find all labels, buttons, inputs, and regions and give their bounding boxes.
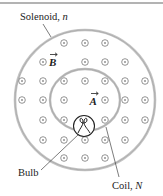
- field-dot-icon: [82, 155, 89, 162]
- vector-b-label: B: [48, 53, 59, 68]
- field-dot-icon: [61, 97, 68, 104]
- vector-a-label: A: [89, 92, 101, 107]
- field-dot-icon: [122, 97, 129, 104]
- field-dot-icon: [102, 78, 109, 85]
- solenoid-variable: n: [63, 11, 68, 22]
- field-dot-icon: [40, 78, 47, 85]
- field-dot-icon: [142, 117, 149, 124]
- field-dot-icon: [122, 78, 129, 85]
- field-dot-icon: [102, 137, 109, 144]
- field-dot-icon: [61, 40, 68, 47]
- field-dot-icon: [82, 78, 89, 85]
- field-dot-icon: [102, 40, 109, 47]
- field-dot-icon: [19, 97, 26, 104]
- svg-text:A: A: [89, 95, 97, 107]
- solenoid-leader-line: [43, 24, 51, 37]
- field-dot-icon: [19, 78, 26, 85]
- coil-variable: N: [134, 180, 143, 191]
- field-dot-icon: [61, 137, 68, 144]
- field-dot-icon: [102, 155, 109, 162]
- coil-leader-line: [106, 127, 119, 177]
- solenoid-label: Solenoid, n: [20, 11, 68, 22]
- field-dot-icon: [40, 97, 47, 104]
- field-dot-icon: [82, 137, 89, 144]
- field-dot-icon: [61, 155, 68, 162]
- coil-label: Coil, N: [112, 180, 143, 191]
- field-dot-icon: [82, 40, 89, 47]
- bulb-icon: [74, 116, 95, 137]
- solenoid-ring: [15, 30, 155, 170]
- field-dot-icon: [122, 59, 129, 66]
- solenoid-coil-diagram: Solenoid, n Bulb Coil, N B A: [0, 0, 163, 196]
- field-dot-icon: [102, 59, 109, 66]
- field-dot-icon: [40, 59, 47, 66]
- field-dot-icon: [82, 59, 89, 66]
- field-dot-icon: [61, 78, 68, 85]
- field-dot-icon: [40, 137, 47, 144]
- field-dot-icon: [122, 117, 129, 124]
- field-dot-icon: [102, 97, 109, 104]
- field-dot-icon: [40, 117, 47, 124]
- field-dot-icon: [122, 137, 129, 144]
- field-dot-icon: [102, 117, 109, 124]
- magnetic-field-dots: [19, 40, 149, 162]
- bulb-label: Bulb: [18, 167, 38, 178]
- field-dot-icon: [142, 97, 149, 104]
- svg-text:B: B: [48, 56, 56, 68]
- field-dot-icon: [142, 78, 149, 85]
